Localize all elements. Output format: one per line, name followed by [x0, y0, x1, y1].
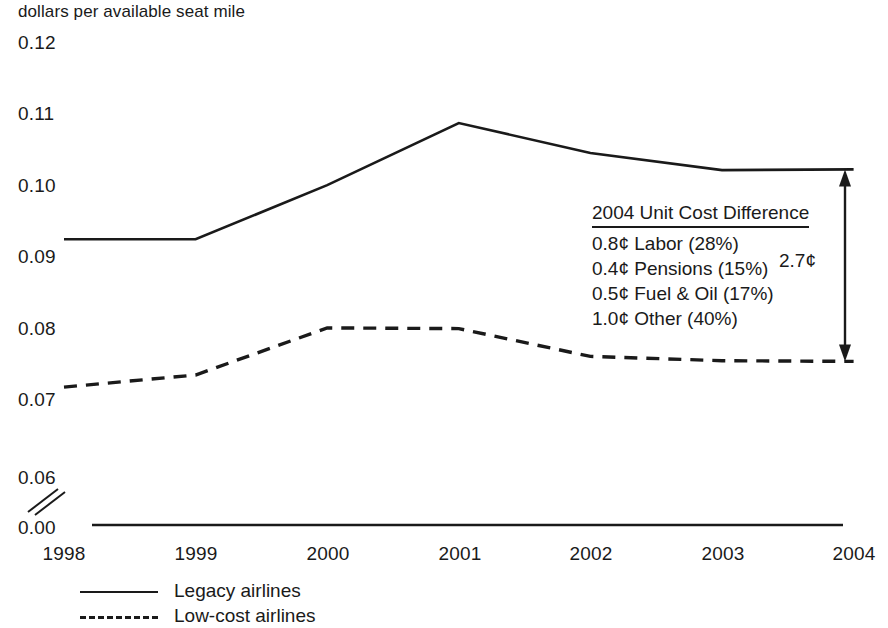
legend-solid-line-icon	[80, 585, 158, 597]
y-tick-label-0: 0.12	[18, 32, 56, 54]
legend-dashed-line-icon	[80, 610, 158, 622]
y-tick-label-1: 0.11	[18, 103, 54, 125]
legend-item-legacy-airlines: Legacy airlines	[80, 578, 316, 603]
y-tick-label-5: 0.07	[18, 389, 56, 411]
x-tick-label-1998: 1998	[42, 543, 85, 565]
callout-title: 2004 Unit Cost Difference	[592, 200, 809, 228]
y-tick-label-3: 0.09	[18, 246, 56, 268]
x-tick-label-2000: 2000	[306, 543, 349, 565]
callout-row-fuel-oil: 0.5¢ Fuel & Oil (17%)	[592, 281, 809, 306]
x-tick-label-2001: 2001	[438, 543, 481, 565]
chart-legend: Legacy airlines Low-cost airlines	[80, 578, 316, 628]
chart-container: dollars per available seat mile 0.12 0.1…	[0, 0, 888, 628]
unit-cost-difference-arrow	[839, 169, 851, 361]
callout-row-pensions: 0.4¢ Pensions (15%)	[592, 256, 809, 281]
unit-cost-difference-callout: 2004 Unit Cost Difference 0.8¢ Labor (28…	[592, 200, 809, 331]
x-tick-label-2003: 2003	[701, 543, 744, 565]
x-tick-label-1999: 1999	[174, 543, 217, 565]
x-tick-label-2004: 2004	[832, 543, 875, 565]
legend-label-low-cost-airlines: Low-cost airlines	[174, 605, 316, 627]
callout-row-other: 1.0¢ Other (40%)	[592, 306, 809, 331]
callout-row-labor: 0.8¢ Labor (28%)	[592, 231, 809, 256]
y-tick-label-4: 0.08	[18, 318, 56, 340]
y-tick-label-7: 0.00	[18, 517, 56, 539]
y-tick-label-6: 0.06	[18, 467, 56, 489]
y-axis-title: dollars per available seat mile	[18, 2, 245, 22]
legend-item-low-cost-airlines: Low-cost airlines	[80, 603, 316, 628]
series-line-low-cost-airlines	[64, 328, 854, 387]
unit-cost-difference-value: 2.7¢	[779, 250, 816, 272]
y-tick-label-2: 0.10	[18, 175, 56, 197]
x-tick-label-2002: 2002	[569, 543, 612, 565]
legend-label-legacy-airlines: Legacy airlines	[174, 580, 301, 602]
axis-break-icon	[28, 489, 65, 515]
